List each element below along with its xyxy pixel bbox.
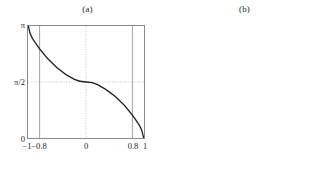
panel-a-title: (a) <box>0 4 161 14</box>
panel-a-xtick-zero: 0 <box>74 142 98 151</box>
panel-a-ytick-pi: π <box>11 21 25 30</box>
panel-a-svg <box>28 26 144 138</box>
panel-b: (b) 0 −π −2π −1 −0.8 0 0.8 1 <box>161 0 322 170</box>
panel-b-title: (b) <box>161 4 322 14</box>
figure-canvas: (a) π π/2 0 −1 −0.8 0 0.8 1 (b) <box>0 0 322 170</box>
panel-a: (a) π π/2 0 −1 −0.8 0 0.8 1 <box>0 0 161 170</box>
panel-a-plot-area <box>27 25 145 139</box>
panel-a-ytick-halfpi: π/2 <box>3 78 25 87</box>
panel-a-xtick-pos1: 1 <box>133 142 157 151</box>
panel-a-xtick-neg08: −0.8 <box>27 142 51 151</box>
